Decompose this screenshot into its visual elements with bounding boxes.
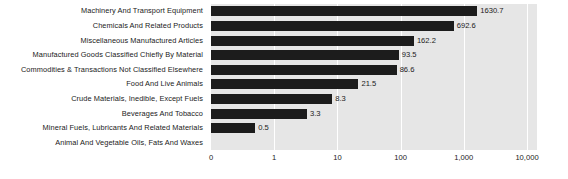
category-label: Machinery And Transport Equipment <box>0 7 203 15</box>
category-label: Chemicals And Related Products <box>0 22 203 30</box>
bar <box>211 123 255 133</box>
gridline <box>527 4 528 150</box>
bar-value-label: 93.5 <box>402 51 417 59</box>
bar-value-label: 692.6 <box>457 22 476 30</box>
bar <box>211 36 414 46</box>
bar <box>211 6 477 16</box>
bar <box>211 65 397 75</box>
category-label: Crude Materials, Inedible, Except Fuels <box>0 95 203 103</box>
bar <box>211 79 358 89</box>
x-tick-label: 10 <box>333 153 341 163</box>
x-tick-label: 0 <box>209 153 213 163</box>
bar-value-label: 162.2 <box>417 37 436 45</box>
bar-chart: Machinery And Transport EquipmentChemica… <box>0 0 568 179</box>
bar-value-label: 3.3 <box>310 110 321 118</box>
bar-value-label: 0.5 <box>258 124 269 132</box>
bar <box>211 94 332 104</box>
category-label: Beverages And Tobacco <box>0 110 203 118</box>
plot-area: 1630.7692.6162.293.586.621.58.33.30.5 <box>211 4 537 150</box>
category-label: Miscellaneous Manufactured Articles <box>0 37 203 45</box>
bar <box>211 50 399 60</box>
x-tick-label: 100 <box>394 153 407 163</box>
bar <box>211 21 454 31</box>
category-label: Commodities & Transactions Not Classifie… <box>0 66 203 74</box>
bar-value-label: 8.3 <box>335 95 346 103</box>
bar-value-label: 86.6 <box>400 66 415 74</box>
x-axis-tick-labels: 01101001,00010,000 <box>211 153 537 167</box>
category-label: Mineral Fuels, Lubricants And Related Ma… <box>0 124 203 132</box>
bar-value-label: 21.5 <box>361 80 376 88</box>
category-label: Animal And Vegetable Oils, Fats And Waxe… <box>0 139 203 147</box>
x-tick-label: 1,000 <box>454 153 473 163</box>
x-tick-label: 1 <box>272 153 276 163</box>
category-label: Food And Live Animals <box>0 80 203 88</box>
bar-value-label: 1630.7 <box>480 7 503 15</box>
category-label: Manufactured Goods Classified Chiefly By… <box>0 51 203 59</box>
category-axis-labels: Machinery And Transport EquipmentChemica… <box>0 4 203 150</box>
bar <box>211 109 307 119</box>
x-tick-label: 10,000 <box>515 153 538 163</box>
